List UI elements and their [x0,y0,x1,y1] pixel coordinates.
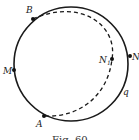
label-m: M [2,66,13,76]
circle-diagram: B M A N1 N q Fig. 60 [0,0,139,140]
point-a [42,114,46,118]
label-n: N [131,52,139,62]
point-m [12,68,16,72]
label-b: B [25,5,33,15]
figure-caption: Fig. 60 [52,134,88,140]
label-n1: N1 [98,55,111,66]
label-q: q [123,87,129,97]
label-a: A [35,119,43,129]
point-b [31,17,35,21]
